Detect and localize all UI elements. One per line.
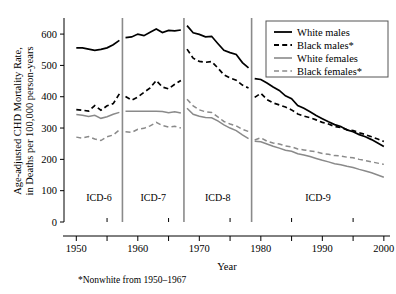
x-tick-label: 2000	[373, 243, 394, 254]
chd-mortality-chart-figure: 0100200300400500600195019601970198019902…	[0, 0, 396, 294]
era-label-icd-9: ICD-9	[305, 192, 331, 203]
series-line-white-males-icd-8	[187, 26, 249, 68]
series-line-black-females-icd-7	[126, 122, 181, 132]
era-label-icd-7: ICD-7	[140, 192, 166, 203]
x-tick-label: 1950	[66, 243, 87, 254]
y-tick-label: 300	[41, 123, 57, 134]
legend-label-white-males: White males	[297, 27, 350, 38]
series-line-black-females-icd-6	[76, 130, 119, 141]
era-label-icd-8: ICD-8	[205, 192, 231, 203]
series-line-black-males-icd-6	[76, 94, 119, 111]
series-line-white-males-icd-9	[255, 79, 384, 147]
series-line-white-females-icd-9	[255, 141, 384, 177]
legend-label-white-females: White females	[297, 53, 358, 64]
series-line-white-females-icd-7	[126, 111, 181, 113]
chart-canvas: 0100200300400500600195019601970198019902…	[0, 0, 396, 294]
series-line-black-males-icd-7	[126, 80, 181, 100]
y-axis-title-line1: Age-adjusted CHD Mortality Rate,	[12, 47, 23, 195]
x-tick-label: 1990	[312, 243, 333, 254]
y-axis-title-line2: in Deaths per 100,000 person-years	[24, 47, 35, 196]
y-tick-label: 600	[41, 29, 57, 40]
legend-label-black-males: Black males*	[297, 40, 354, 51]
legend-label-black-females: Black females*	[297, 66, 362, 77]
y-tick-label: 200	[41, 154, 57, 165]
series-line-white-females-icd-6	[76, 112, 119, 118]
chart-legend: White malesBlack males*White femalesBlac…	[266, 21, 388, 77]
x-tick-label: 1960	[127, 243, 148, 254]
y-tick-label: 0	[52, 217, 57, 228]
series-line-black-males-icd-8	[187, 49, 249, 88]
x-tick-label: 1980	[250, 243, 271, 254]
series-line-white-males-icd-7	[126, 29, 181, 37]
footnote-text: *Nonwhite from 1950–1967	[78, 275, 186, 285]
series-line-white-males-icd-6	[76, 40, 119, 50]
era-label-icd-6: ICD-6	[86, 192, 112, 203]
x-tick-label: 1970	[189, 243, 210, 254]
y-tick-label: 100	[41, 185, 57, 196]
series-line-black-females-icd-9	[255, 138, 384, 165]
y-tick-label: 400	[41, 91, 57, 102]
x-axis-title: Year	[217, 261, 237, 272]
series-line-white-females-icd-8	[187, 108, 249, 138]
y-tick-label: 500	[41, 60, 57, 71]
